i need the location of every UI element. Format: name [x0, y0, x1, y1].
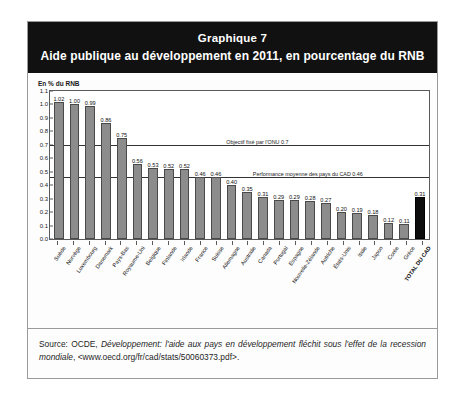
x-label-gr-ce: Grèce	[402, 245, 416, 261]
bar-value-label: 0.53	[148, 162, 159, 168]
chart-panel: En % du RNB 1.11.00.90.80.70.60.50.40.30…	[28, 73, 437, 328]
figure-title-banner: Graphique 7 Aide publique au développeme…	[28, 22, 437, 73]
x-label-france: France	[194, 245, 209, 263]
bar-france[interactable]: 0.46	[195, 177, 205, 239]
bar-value-label: 0.19	[352, 207, 363, 213]
plot-inner: 1.11.00.90.80.70.60.50.40.30.20.10.0 Obj…	[50, 91, 429, 239]
bar-autriche[interactable]: 0.27	[321, 203, 331, 239]
y-tick-label: 1.0	[40, 101, 48, 107]
x-axis-labels: SuèdeNorvègeLuxembourgDanemarkPays-BasRo…	[49, 245, 430, 315]
bar-slot: 0.18	[365, 91, 381, 239]
bar-italie[interactable]: 0.19	[352, 213, 362, 239]
x-label-australie: Australie	[240, 245, 257, 266]
bar-gr-ce[interactable]: 0.11	[399, 224, 409, 239]
bar-slot: 0.99	[82, 91, 98, 239]
source-footer: Source: OCDE, Développement: l'aide aux …	[28, 328, 437, 380]
bar-value-label: 0.86	[101, 117, 112, 123]
bar-canada[interactable]: 0.31	[258, 197, 268, 239]
x-label-cor-e: Corée	[386, 245, 400, 261]
bar-pays-bas[interactable]: 0.75	[117, 138, 127, 239]
bar-value-label: 0.31	[258, 191, 269, 197]
bar-value-label: 0.27	[320, 197, 331, 203]
bar-value-label: 0.12	[383, 217, 394, 223]
bar-value-label: 0.46	[195, 171, 206, 177]
bar-slot: 0.46	[208, 91, 224, 239]
bar-suisse[interactable]: 0.46	[211, 177, 221, 239]
bar-value-label: 0.29	[289, 194, 300, 200]
source-suffix: , <www.oecd.org/fr/cad/stats/50060373.pd…	[73, 352, 239, 362]
bar-slot: 0.53	[145, 91, 161, 239]
bar-slot: 0.28	[302, 91, 318, 239]
bar-value-label: 1.00	[69, 98, 80, 104]
bar-value-label: 0.52	[179, 163, 190, 169]
y-tick-label: 0.4	[40, 182, 48, 188]
bar-norv-ge[interactable]: 1.00	[70, 104, 80, 239]
bar-slot: 0.19	[349, 91, 365, 239]
figure-title: Aide publique au développement en 2011, …	[40, 48, 424, 64]
bar-allemagne[interactable]: 0.40	[227, 185, 237, 239]
bar-danemark[interactable]: 0.86	[101, 123, 111, 239]
x-label-finlande: Finlande	[160, 245, 177, 266]
bar-luxembourg[interactable]: 0.99	[85, 106, 95, 239]
bar-irlande[interactable]: 0.52	[180, 169, 190, 239]
bar-slot: 0.29	[287, 91, 303, 239]
bar-slot: 0.40	[224, 91, 240, 239]
bar-slot: 0.29	[271, 91, 287, 239]
bar-nouvelle-z-lande[interactable]: 0.28	[305, 201, 315, 239]
bar-value-label: 0.35	[242, 186, 253, 192]
bar-slot: 0.27	[318, 91, 334, 239]
bar-value-label: 0.28	[305, 195, 316, 201]
bar-value-label: 0.52	[163, 163, 174, 169]
x-label-belgique: Belgique	[144, 245, 161, 266]
bar-value-label: 0.31	[415, 191, 426, 197]
bar-slot: 1.02	[51, 91, 67, 239]
y-tick-label: 0.3	[40, 196, 48, 202]
y-tick-label: 0.9	[40, 115, 48, 121]
bar-belgique[interactable]: 0.53	[148, 168, 158, 239]
bar-value-label: 1.02	[53, 96, 64, 102]
source-text: Source: OCDE, Développement: l'aide aux …	[39, 338, 426, 364]
y-tick-label: 0.7	[40, 142, 48, 148]
x-label-canada: Canada	[257, 245, 273, 265]
bar-japon[interactable]: 0.18	[368, 215, 378, 239]
bar-finlande[interactable]: 0.52	[164, 169, 174, 239]
figure-container: Graphique 7 Aide publique au développeme…	[27, 21, 438, 379]
bar-slot: 0.75	[114, 91, 130, 239]
bar-slot: 1.00	[67, 91, 83, 239]
bar-slot: 0.31	[412, 91, 428, 239]
x-label-irlande: Irlande	[179, 245, 194, 262]
bar-value-label: 0.20	[336, 206, 347, 212]
bar-australie[interactable]: 0.35	[242, 192, 252, 239]
bar-portugal[interactable]: 0.29	[274, 200, 284, 239]
bar-slot: 0.86	[98, 91, 114, 239]
bar-series: 1.021.000.990.860.750.560.530.520.520.46…	[50, 91, 429, 239]
y-tick-label: 0.6	[40, 155, 48, 161]
bar-value-label: 0.29	[273, 194, 284, 200]
bar-value-label: 0.99	[85, 100, 96, 106]
bar-total-du-cad[interactable]: 0.31	[415, 197, 425, 239]
x-label-su-de: Suède	[52, 245, 66, 262]
screenshot-page: Graphique 7 Aide publique au développeme…	[0, 0, 465, 398]
bar-royaume-uni[interactable]: 0.56	[133, 164, 143, 239]
x-label-suisse: Suisse	[211, 245, 226, 262]
bar-slot: 0.52	[161, 91, 177, 239]
y-tick-label: 1.1	[40, 88, 48, 94]
bar-slot: 0.46	[192, 91, 208, 239]
y-tick-label: 0.8	[40, 128, 48, 134]
bar-value-label: 0.75	[116, 132, 127, 138]
bar-slot: 0.35	[239, 91, 255, 239]
bar-cor-e[interactable]: 0.12	[384, 223, 394, 239]
bar-value-label: 0.18	[367, 209, 378, 215]
bar-slot: 0.52	[177, 91, 193, 239]
bar-slot: 0.12	[381, 91, 397, 239]
bar-su-de[interactable]: 1.02	[54, 102, 64, 239]
bar--tats-unis[interactable]: 0.20	[337, 212, 347, 239]
y-tick-label: 0.1	[40, 223, 48, 229]
x-label-italie: Italie	[356, 245, 368, 258]
source-prefix: Source: OCDE,	[39, 339, 101, 349]
bar-value-label: 0.40	[226, 179, 237, 185]
bar-espagne[interactable]: 0.29	[290, 200, 300, 239]
y-axis-label: En % du RNB	[38, 80, 80, 87]
bar-slot: 0.31	[255, 91, 271, 239]
bar-value-label: 0.46	[210, 171, 221, 177]
